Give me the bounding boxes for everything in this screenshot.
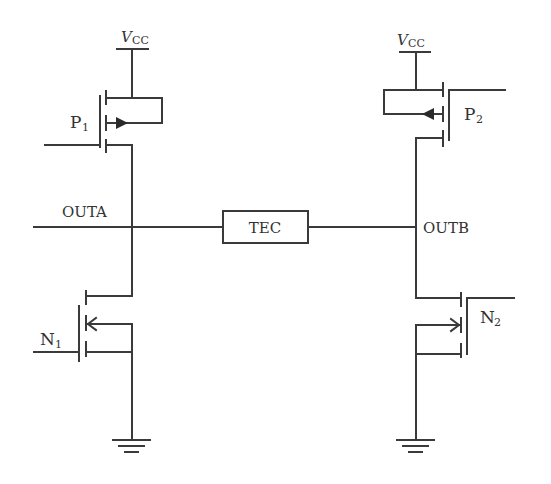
vcc-right-sub: CC [408,37,425,50]
circuit-diagram: V CC P 1 OUTA [0,0,551,484]
vcc-right: V CC [397,31,430,90]
outa-label: OUTA [62,203,107,221]
p1-arrow-icon [116,117,128,129]
vcc-left: V CC [117,28,149,98]
nmos-n2: N 2 [416,293,514,440]
left-half: V CC P 1 OUTA [34,28,222,452]
n1-sub: 1 [55,338,62,351]
vcc-left-sub: CC [132,34,149,47]
n2-sub: 2 [494,316,501,329]
n1-label: N [40,329,55,349]
p1-sub: 1 [82,121,89,134]
ground-right-icon [397,440,434,452]
p2-arrow-icon [422,108,434,120]
tec-load: TEC [223,211,415,243]
pmos-p1: P 1 [45,91,162,152]
pmos-p2: P 2 [384,83,505,146]
p2-label: P [464,104,475,124]
outb-label: OUTB [423,219,469,237]
p2-sub: 2 [476,113,483,126]
nmos-n1: N 1 [34,291,132,440]
right-half: V CC P 2 OUTB [384,31,514,452]
n2-label: N [480,307,495,327]
tec-label: TEC [249,219,281,237]
p1-label: P [70,112,81,132]
ground-left-icon [113,440,150,452]
